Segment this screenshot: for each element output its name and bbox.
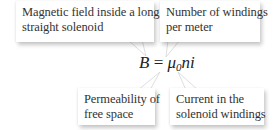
callout-windings-per-meter: Number of windings per meter bbox=[160, 1, 260, 42]
formula-equals: = bbox=[149, 53, 167, 72]
callout-permeability: Permeability of free space bbox=[78, 88, 155, 125]
callout-text-line: Number of windings bbox=[166, 5, 254, 20]
callout-text-line: free space bbox=[84, 107, 149, 122]
formula-rest: ni bbox=[182, 53, 195, 72]
callout-magnetic-field: Magnetic field inside a long, straight s… bbox=[16, 1, 154, 42]
formula-lhs: B bbox=[139, 53, 149, 72]
callout-text-line: Permeability of bbox=[84, 92, 149, 107]
callout-text-line: per meter bbox=[166, 20, 254, 35]
callout-text-line: straight solenoid bbox=[22, 20, 148, 35]
callout-text-line: solenoid windings bbox=[176, 107, 258, 122]
formula: B = μ0ni bbox=[139, 53, 195, 73]
callout-text-line: Magnetic field inside a long, bbox=[22, 5, 148, 20]
callout-current: Current in the solenoid windings bbox=[170, 88, 264, 125]
formula-mu: μ bbox=[167, 53, 176, 72]
callout-text-line: Current in the bbox=[176, 92, 258, 107]
